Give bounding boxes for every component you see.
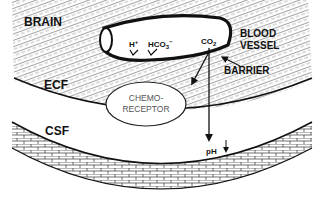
- barrier-label: BARRIER: [224, 65, 270, 76]
- chemoreceptor-label-line2: RECEPTOR: [122, 104, 169, 114]
- vessel-opening: [100, 28, 112, 52]
- ecf-label: ECF: [44, 78, 68, 92]
- blood-vessel-label-line1: BLOOD: [240, 28, 276, 39]
- blood-vessel-label-line2: VESSEL: [240, 40, 279, 51]
- brain-chemoreceptor-diagram: BRAIN ECF CSF H+ HCO3− CO2 BLOOD VESSEL …: [0, 0, 321, 206]
- brain-label: BRAIN: [24, 15, 62, 29]
- chemoreceptor-label-line1: CHEMO-: [129, 93, 164, 103]
- csf-label: CSF: [45, 124, 69, 138]
- ph-label: pH: [206, 147, 217, 156]
